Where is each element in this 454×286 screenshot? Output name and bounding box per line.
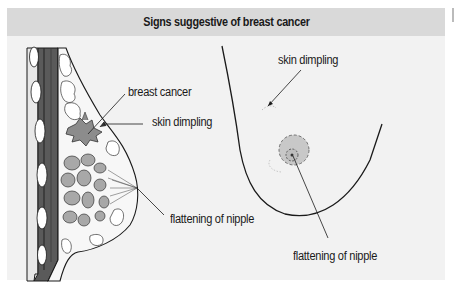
breast-external-illustration xyxy=(222,46,382,238)
label-skin-dimpling-right: skin dimpling xyxy=(278,53,338,67)
label-breast-cancer-left: breast cancer xyxy=(128,85,191,99)
breast-cross-section-illustration xyxy=(0,0,454,286)
label-flattening-of-nipple-right: flattening of nipple xyxy=(293,249,377,263)
label-flattening-of-nipple-left: flattening of nipple xyxy=(170,212,254,226)
label-skin-dimpling-left: skin dimpling xyxy=(152,115,212,129)
breast-tissue xyxy=(48,48,138,281)
chest-wall xyxy=(27,47,58,281)
